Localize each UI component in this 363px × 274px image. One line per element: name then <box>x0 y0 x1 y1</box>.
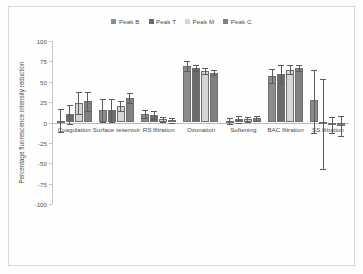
error-bar-cap <box>109 122 115 123</box>
error-bar-cap <box>160 122 166 123</box>
bar-slot <box>159 41 167 204</box>
error-bar-cap <box>67 105 73 106</box>
bar-slot <box>235 41 243 204</box>
bar[interactable] <box>201 71 209 122</box>
bar-slot <box>84 41 92 204</box>
error-bar <box>154 111 155 119</box>
error-bar-cap <box>109 99 115 100</box>
bar-slot <box>126 41 134 204</box>
y-tick-mark <box>49 102 52 103</box>
legend-label: Peak M <box>193 18 215 25</box>
legend-label: Peak B <box>119 18 140 25</box>
error-bar-cap <box>311 133 317 134</box>
error-bar-cap <box>245 122 251 123</box>
bar-slot-row <box>222 41 264 204</box>
error-bar-cap <box>296 71 302 72</box>
error-bar <box>111 99 112 122</box>
error-bar-cap <box>100 99 106 100</box>
bar[interactable] <box>295 68 303 123</box>
error-bar-cap <box>269 83 275 84</box>
bar-slot <box>253 41 261 204</box>
legend-item-peak-b[interactable]: Peak B <box>111 18 139 25</box>
bar[interactable] <box>183 66 191 122</box>
legend-label: Peak T <box>156 18 176 25</box>
bar-slot <box>75 41 83 204</box>
y-tick-mark <box>49 61 52 62</box>
error-bar-cap <box>269 69 275 70</box>
error-bar-cap <box>254 121 260 122</box>
bar-slot-row <box>53 41 95 204</box>
error-bar <box>120 101 121 111</box>
bar-slot <box>168 41 176 204</box>
y-tick-label: -75 <box>38 180 47 187</box>
error-bar <box>78 92 79 113</box>
bar-group: RS filtration <box>138 41 180 204</box>
y-tick-label: 75 <box>40 58 47 65</box>
error-bar-cap <box>236 116 242 117</box>
error-bar-cap <box>202 74 208 75</box>
bar-slot <box>210 41 218 204</box>
error-bar <box>129 93 130 103</box>
y-tick-mark <box>49 204 52 205</box>
legend-label: Peak C <box>231 18 252 25</box>
error-bar-cap <box>160 117 166 118</box>
legend-item-peak-c[interactable]: Peak C <box>223 18 251 25</box>
error-bar-cap <box>184 61 190 62</box>
bar-slot-row <box>138 41 180 204</box>
legend-swatch-icon <box>111 19 116 24</box>
error-bar-cap <box>85 111 91 112</box>
error-bar-cap <box>296 65 302 66</box>
error-bar-cap <box>142 110 148 111</box>
error-bar-cap <box>254 116 260 117</box>
figure-container: Peak BPeak TPeak MPeak C Percentage fluo… <box>0 0 363 274</box>
error-bar-cap <box>287 74 293 75</box>
bar-group: Surface reservoir <box>95 41 137 204</box>
bar-group: Ozonation <box>180 41 222 204</box>
error-bar <box>314 70 315 133</box>
bar-group: BAC filtration <box>264 41 306 204</box>
error-bar-cap <box>118 111 124 112</box>
bar-slot <box>66 41 74 204</box>
error-bar-cap <box>100 122 106 123</box>
legend-item-peak-m[interactable]: Peak M <box>185 18 214 25</box>
legend-swatch-icon <box>149 19 154 24</box>
error-bar-cap <box>151 111 157 112</box>
error-bar-cap <box>311 70 317 71</box>
error-bar-cap <box>127 103 133 104</box>
bar[interactable] <box>192 68 200 123</box>
error-bar-cap <box>245 117 251 118</box>
y-tick-mark <box>49 41 52 42</box>
y-axis-title: Percentage fluorescence intensity reduct… <box>16 41 28 204</box>
error-bar-cap <box>76 92 82 93</box>
bar-group: Softening <box>222 41 264 204</box>
error-bar-cap <box>211 70 217 71</box>
bar-slot <box>277 41 285 204</box>
error-bar-cap <box>227 118 233 119</box>
error-bar-cap <box>287 65 293 66</box>
error-bar-cap <box>211 75 217 76</box>
error-bar-cap <box>320 169 326 170</box>
error-bar-cap <box>76 114 82 115</box>
error-bar-cap <box>169 123 175 124</box>
bar-slot <box>192 41 200 204</box>
legend-item-peak-t[interactable]: Peak T <box>149 18 177 25</box>
error-bar-cap <box>202 68 208 69</box>
error-bar-cap <box>278 83 284 84</box>
bar[interactable] <box>286 70 294 123</box>
bar-slot <box>117 41 125 204</box>
error-bar-cap <box>278 65 284 66</box>
error-bar <box>281 65 282 83</box>
error-bar-cap <box>85 92 91 93</box>
bar-slot-row <box>307 41 349 204</box>
bar-slot <box>337 41 345 204</box>
bar-slot-row <box>264 41 306 204</box>
bar-slot <box>310 41 318 204</box>
bar-slot <box>295 41 303 204</box>
error-bar <box>69 105 70 125</box>
error-bar-cap <box>236 123 242 124</box>
bar-slot <box>286 41 294 204</box>
y-tick-label: 25 <box>40 99 47 106</box>
bar[interactable] <box>210 73 218 123</box>
error-bar-cap <box>320 79 326 80</box>
y-tick-mark <box>49 143 52 144</box>
